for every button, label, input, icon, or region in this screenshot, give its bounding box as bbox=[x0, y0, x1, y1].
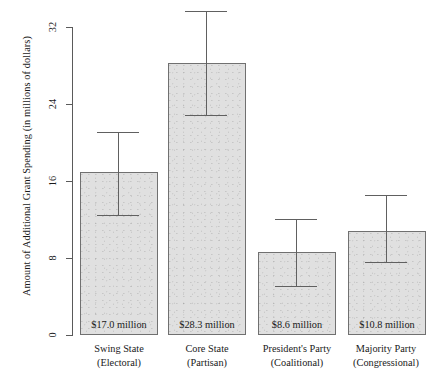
bar-value-label-majority-party: $10.8 million bbox=[349, 319, 425, 330]
category-label-majority-party-line1: Majority Party bbox=[334, 342, 436, 356]
category-label-swing-state-line2: (Electoral) bbox=[70, 356, 168, 370]
errorbar-cap-lower-presidents-party bbox=[275, 286, 317, 287]
errorbar-stem-swing-state bbox=[118, 132, 119, 215]
bar-value-label-presidents-party: $8.6 million bbox=[259, 319, 335, 330]
bar-chart-figure: Amount of Additional Grant Spending (in … bbox=[0, 0, 436, 382]
bar-majority-party: $10.8 million bbox=[348, 231, 426, 335]
errorbar-cap-upper-presidents-party bbox=[275, 219, 317, 220]
bar-swing-state: $17.0 million bbox=[80, 172, 158, 335]
category-label-majority-party-line2: (Congressional) bbox=[334, 356, 436, 370]
errorbar-stem-presidents-party bbox=[296, 219, 297, 286]
category-label-core-state-line1: Core State bbox=[158, 342, 256, 356]
category-label-swing-state: Swing State (Electoral) bbox=[70, 342, 168, 369]
plot-area: $17.0 million $28.3 million $8.6 million… bbox=[0, 0, 436, 382]
bar-presidents-party: $8.6 million bbox=[258, 252, 336, 335]
errorbar-cap-lower-swing-state bbox=[97, 215, 139, 216]
bar-core-state: $28.3 million bbox=[168, 63, 246, 335]
errorbar-cap-upper-majority-party bbox=[365, 195, 407, 196]
errorbar-stem-majority-party bbox=[386, 195, 387, 262]
category-label-presidents-party: President's Party (Coalitional) bbox=[246, 342, 348, 369]
errorbar-cap-upper-core-state bbox=[185, 11, 227, 12]
errorbar-cap-lower-majority-party bbox=[365, 262, 407, 263]
category-label-presidents-party-line1: President's Party bbox=[246, 342, 348, 356]
category-label-majority-party: Majority Party (Congressional) bbox=[334, 342, 436, 369]
errorbar-stem-core-state bbox=[206, 11, 207, 115]
category-label-swing-state-line1: Swing State bbox=[70, 342, 168, 356]
bar-value-label-swing-state: $17.0 million bbox=[81, 319, 157, 330]
category-label-core-state-line2: (Partisan) bbox=[158, 356, 256, 370]
category-label-core-state: Core State (Partisan) bbox=[158, 342, 256, 369]
category-label-presidents-party-line2: (Coalitional) bbox=[246, 356, 348, 370]
bar-value-label-core-state: $28.3 million bbox=[169, 319, 245, 330]
errorbar-cap-upper-swing-state bbox=[97, 132, 139, 133]
errorbar-cap-lower-core-state bbox=[185, 115, 227, 116]
